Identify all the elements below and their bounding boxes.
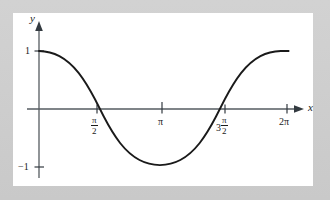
y-axis-arrowhead xyxy=(35,21,43,31)
cosine-curve xyxy=(39,51,289,165)
fraction-denominator: 2 xyxy=(221,126,228,136)
y-tick-label-one: 1 xyxy=(25,46,30,56)
x-tick-label-pi: π xyxy=(158,117,163,127)
x-axis-arrowhead xyxy=(294,105,304,113)
fraction-leading-integer: 3 xyxy=(216,123,221,133)
x-tick-label-2pi: 2π xyxy=(279,117,289,127)
fraction-pi-over-2-second: π 2 xyxy=(221,115,228,137)
fraction-denominator: 2 xyxy=(91,126,98,136)
y-axis-label: y xyxy=(30,13,35,24)
x-tick-label-pi-over-2: π 2 xyxy=(91,115,98,137)
fraction-pi-over-2: π 2 xyxy=(91,115,98,137)
y-tick-label-negative-one: −1 xyxy=(18,162,29,172)
x-axis-label: x xyxy=(308,102,313,113)
cosine-plot-svg xyxy=(13,13,313,186)
fraction-numerator: π xyxy=(221,115,228,126)
fraction-numerator: π xyxy=(91,115,98,126)
plot-panel: y x 1 −1 π 2 π 3 π 2 2π xyxy=(13,13,313,186)
figure-root: y x 1 −1 π 2 π 3 π 2 2π xyxy=(0,0,330,200)
x-tick-label-3pi-over-2: 3 π 2 xyxy=(216,115,228,137)
